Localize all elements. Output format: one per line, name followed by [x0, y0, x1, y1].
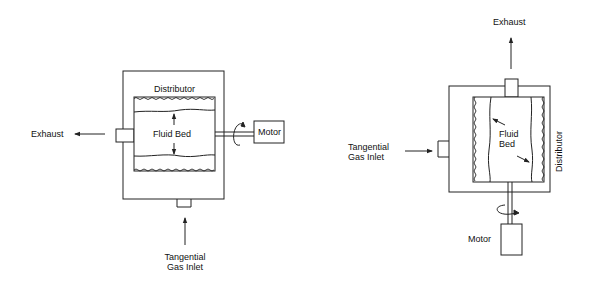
distributor-label: Distributor [154, 84, 195, 94]
fluid-bed-label-line1: Fluid [499, 129, 519, 139]
exhaust-label: Exhaust [31, 129, 64, 139]
exhaust-port [505, 79, 518, 97]
gas-inlet-label-line1: Tangential [160, 252, 210, 262]
fluid-bed-label-line2: Bed [499, 139, 519, 149]
gas-inlet-port [177, 199, 191, 207]
gas-inlet-port [438, 141, 449, 157]
exhaust-port [116, 129, 134, 142]
right-diagram [405, 38, 550, 255]
motor-label: Motor [468, 234, 491, 244]
gas-inlet-label-line1: Tangential [348, 142, 389, 152]
gas-inlet-label-line2: Gas Inlet [160, 262, 210, 272]
motor-label: Motor [258, 127, 281, 137]
fluid-bed-label: Fluid Bed [153, 129, 191, 139]
motor-box [501, 224, 522, 255]
distributor-label: Distributor [554, 131, 564, 172]
gas-inlet-label-line2: Gas Inlet [348, 152, 389, 162]
exhaust-label: Exhaust [493, 17, 526, 27]
gas-inlet-label: Tangential Gas Inlet [160, 252, 210, 272]
fluid-bed-label: Fluid Bed [499, 129, 519, 149]
gas-inlet-label: Tangential Gas Inlet [348, 142, 389, 162]
left-diagram [75, 71, 284, 245]
